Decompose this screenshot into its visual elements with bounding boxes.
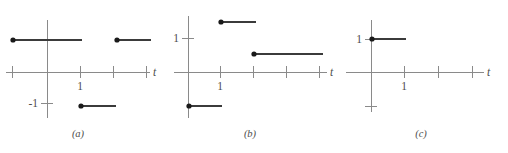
panel-a-xlabel-1: 1: [77, 80, 83, 92]
panel-b-segment-3-dot: [186, 103, 191, 108]
signal-plot-figure: 1 -1 t (a) 1 1 t (b): [0, 0, 508, 153]
panel-c-segment-1-dot: [369, 36, 374, 41]
panel-b-segment-2-dot: [251, 51, 256, 56]
panel-c-t-axis-label: t: [487, 66, 491, 78]
panel-a-segment-2-dot: [114, 37, 119, 42]
panel-a-t-axis-label: t: [153, 66, 157, 78]
panel-c-ylabel-1: 1: [356, 33, 362, 45]
panel-c: 1 1 t (c): [346, 20, 491, 140]
panel-b-xlabel-1: 1: [217, 80, 223, 92]
figure-canvas: 1 -1 t (a) 1 1 t (b): [0, 0, 508, 153]
panel-b-ylabel-1: 1: [173, 32, 179, 44]
panel-b-t-axis-label: t: [330, 66, 334, 78]
panel-c-xlabel-1: 1: [401, 80, 407, 92]
panel-b: 1 1 t (b): [173, 16, 334, 140]
panel-c-caption: (c): [415, 128, 427, 140]
panel-a: 1 -1 t (a): [6, 20, 157, 140]
panel-a-ylabel-neg1: -1: [28, 97, 38, 109]
panel-a-caption: (a): [72, 128, 85, 140]
panel-b-segment-1-dot: [218, 19, 223, 24]
panel-a-segment-1-dot: [10, 37, 15, 42]
panel-a-segment-3-dot: [78, 103, 83, 108]
panel-b-caption: (b): [244, 128, 257, 140]
